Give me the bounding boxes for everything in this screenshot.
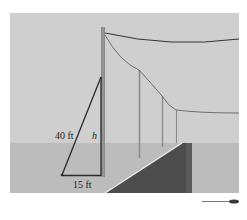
ladder-foot bbox=[61, 174, 64, 177]
base-distance-label: 15 ft bbox=[73, 179, 92, 190]
road-shade bbox=[186, 143, 192, 193]
ladder-pole-diagram: 40 ft h 15 ft bbox=[0, 0, 247, 220]
sky-region bbox=[10, 13, 239, 144]
ladder-length-label: 40 ft bbox=[55, 130, 74, 141]
pointer-icon bbox=[229, 200, 239, 204]
height-label: h bbox=[92, 130, 97, 141]
